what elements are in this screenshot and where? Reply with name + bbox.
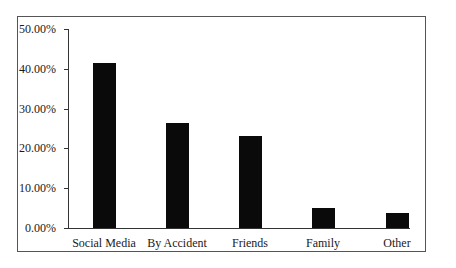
y-tick-label: 20.00% — [4, 141, 56, 156]
x-tick-label: Other — [352, 236, 442, 251]
y-tick-label: 30.00% — [4, 102, 56, 117]
y-tick-label: 0.00% — [4, 221, 56, 236]
y-tick — [64, 228, 68, 229]
y-tick-label: 40.00% — [4, 62, 56, 77]
y-tick-label: 50.00% — [4, 22, 56, 37]
bar-by-accident — [166, 123, 189, 228]
x-axis — [68, 228, 410, 229]
y-tick — [64, 69, 68, 70]
bar-chart: 0.00%10.00%20.00%30.00%40.00%50.00%Socia… — [0, 0, 456, 268]
y-tick — [64, 109, 68, 110]
bar-friends — [239, 136, 262, 228]
y-tick — [64, 29, 68, 30]
bar-social-media — [93, 63, 116, 228]
y-axis — [68, 29, 69, 229]
y-tick — [64, 188, 68, 189]
bar-family — [312, 208, 335, 228]
bar-other — [386, 213, 409, 228]
y-tick — [64, 148, 68, 149]
y-tick-label: 10.00% — [4, 181, 56, 196]
